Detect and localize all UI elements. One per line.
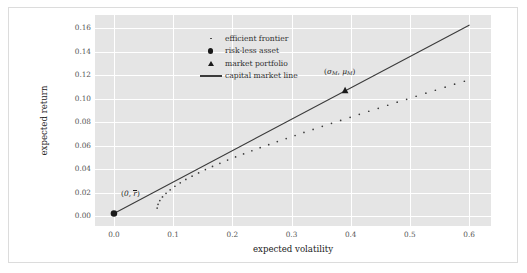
y-tick-label: 0.12 <box>51 72 91 79</box>
legend-label: capital market line <box>225 72 298 80</box>
y-axis-title: expected return <box>40 15 49 226</box>
legend-entry-market-portfolio: market portfolio <box>199 57 329 70</box>
legend-label: market portfolio <box>225 60 288 68</box>
y-tick-label: 0.00 <box>51 212 91 219</box>
y-tick-label: 0.16 <box>51 25 91 32</box>
y-tick-label: 0.06 <box>51 142 91 149</box>
y-tick-label: 0.14 <box>51 48 91 55</box>
chart-legend: efficient frontier risk-less asset marke… <box>199 32 329 82</box>
y-tick-label: 0.10 <box>51 95 91 102</box>
legend-label: risk-less asset <box>225 47 279 55</box>
dotted-point-marker-icon <box>199 32 225 45</box>
x-tick-label: 0.0 <box>94 231 134 238</box>
legend-entry-efficient-frontier: efficient frontier <box>199 32 329 45</box>
solid-line-marker-icon <box>199 70 225 83</box>
chart-page: (0, r) (σM, μM) efficient frontier risk-… <box>0 0 527 273</box>
y-tick-label: 0.04 <box>51 165 91 172</box>
x-tick-label: 0.6 <box>449 231 489 238</box>
x-tick-label: 0.4 <box>331 231 371 238</box>
x-tick-label: 0.2 <box>212 231 252 238</box>
riskless-asset-annotation: (0, r) <box>121 190 140 197</box>
x-tick-label: 0.3 <box>272 231 312 238</box>
legend-entry-capital-market-line: capital market line <box>199 70 329 83</box>
plot-area: (0, r) (σM, μM) efficient frontier risk-… <box>95 15 491 226</box>
y-tick-label: 0.08 <box>51 119 91 126</box>
filled-triangle-marker-icon <box>199 57 225 70</box>
series-risk-less-asset <box>111 210 118 217</box>
series-efficient-frontier <box>156 80 465 209</box>
x-axis-tick-labels: 0.00.10.20.30.40.50.6 <box>95 231 491 243</box>
y-tick-label: 0.02 <box>51 189 91 196</box>
x-axis-title: expected volatility <box>95 245 491 254</box>
filled-circle-marker-icon <box>199 45 225 58</box>
x-tick-label: 0.5 <box>390 231 430 238</box>
legend-label: efficient frontier <box>225 35 288 43</box>
x-tick-label: 0.1 <box>153 231 193 238</box>
legend-entry-risk-less-asset: risk-less asset <box>199 45 329 58</box>
y-axis-tick-labels: 0.000.020.040.060.080.100.120.140.16 <box>48 15 91 226</box>
